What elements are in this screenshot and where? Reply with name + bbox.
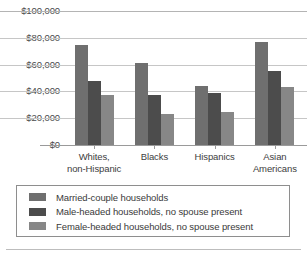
legend-label: Male-headed households, no spouse presen… (56, 207, 242, 217)
category-label-asian-americans: Asian Americans (245, 151, 305, 174)
bar-female-headed-blacks (161, 114, 174, 145)
y-axis: $100,000 $80,000 $60,000 $40,000 $20,000… (0, 8, 64, 153)
category-label-hispanics: Hispanics (185, 151, 245, 163)
category-label-line2: non-Hispanic (64, 163, 124, 175)
legend-item-married-couple: Married-couple households (17, 190, 289, 205)
bar-male-headed-asian (268, 71, 281, 145)
bar-group-asian-americans (245, 8, 305, 145)
legend-swatch-icon (29, 208, 46, 216)
category-label-line1: Asian (245, 151, 305, 163)
x-axis-ticks (64, 145, 305, 150)
axis-tick (154, 145, 155, 149)
bar-female-headed-hispanics (221, 112, 234, 146)
bar-female-headed-whites (101, 95, 114, 145)
axis-tick (94, 145, 95, 149)
bar-male-headed-hispanics (208, 93, 221, 145)
legend-swatch-icon (29, 222, 46, 230)
plot-area: $100,000 $80,000 $60,000 $40,000 $20,000… (0, 8, 307, 153)
axis-tick (215, 145, 216, 149)
bar-married-couple-blacks (135, 63, 148, 145)
category-label-line1: Whites, (64, 151, 124, 163)
bottom-divider (6, 249, 301, 250)
bar-married-couple-asian (255, 42, 268, 145)
bar-group-hispanics (185, 8, 245, 145)
legend-item-male-headed: Male-headed households, no spouse presen… (17, 205, 289, 220)
bar-married-couple-whites (75, 45, 88, 146)
legend-item-female-headed: Female-headed households, no spouse pres… (17, 219, 289, 234)
category-label-blacks: Blacks (124, 151, 184, 163)
bars-layer (64, 8, 305, 145)
legend-label: Female-headed households, no spouse pres… (56, 222, 253, 232)
axis-tick (275, 145, 276, 149)
category-label-line1: Hispanics (185, 151, 245, 163)
category-label-line1: Blacks (124, 151, 184, 163)
bar-group-whites-non-hispanic (64, 8, 124, 145)
legend-swatch-icon (29, 193, 46, 201)
chart-legend: Married-couple households Male-headed ho… (16, 185, 290, 237)
bar-chart-figure: $100,000 $80,000 $60,000 $40,000 $20,000… (0, 0, 307, 261)
bar-married-couple-hispanics (195, 86, 208, 145)
bar-female-headed-asian (281, 87, 294, 145)
category-label-line2: Americans (245, 163, 305, 175)
bar-group-blacks (124, 8, 184, 145)
category-label-whites: Whites, non-Hispanic (64, 151, 124, 174)
bar-male-headed-blacks (148, 95, 161, 145)
x-axis-category-labels: Whites, non-Hispanic Blacks Hispanics As… (64, 151, 305, 181)
bar-male-headed-whites (88, 81, 101, 145)
legend-label: Married-couple households (56, 193, 168, 203)
